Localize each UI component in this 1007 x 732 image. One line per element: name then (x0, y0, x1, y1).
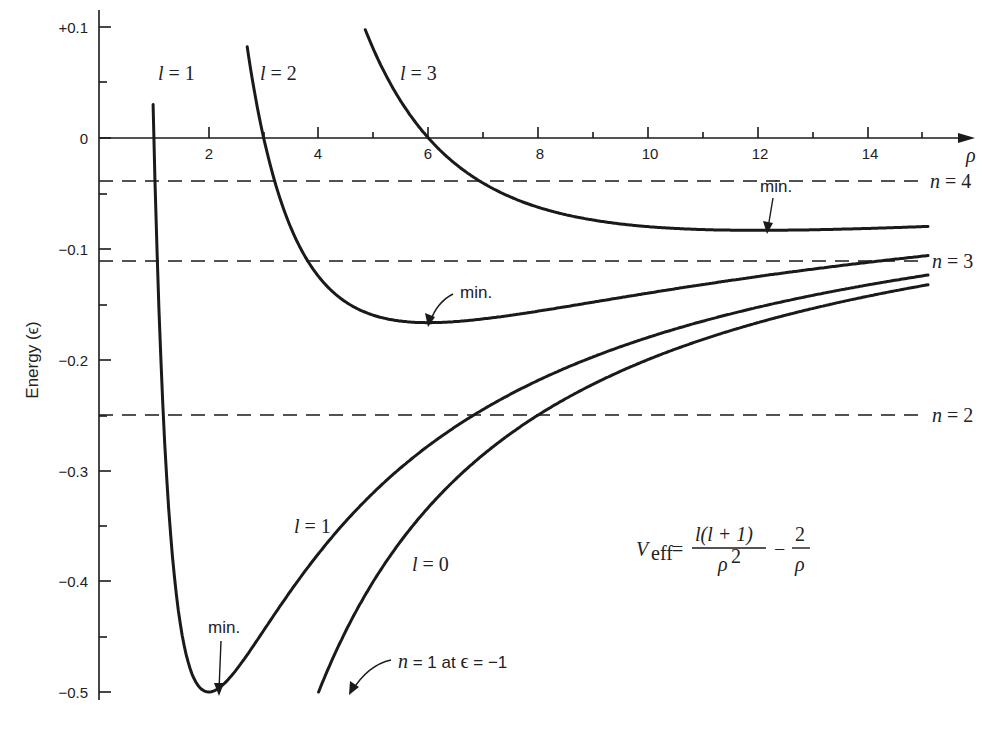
x-tick-label: 6 (424, 145, 432, 162)
arrowheads (214, 221, 773, 696)
formula-denominator: ρ (717, 553, 728, 576)
x-tick-label: 14 (862, 145, 879, 162)
formula-numerator2: 2 (795, 523, 805, 545)
y-tick-labels: +0.1 0 −0.1 −0.2 −0.3 −0.4 −0.5 (58, 19, 88, 701)
level-n4-label: n = 4 (930, 170, 971, 192)
x-tick-labels: 2 4 6 8 10 12 14 (205, 145, 879, 162)
curve-l1-label: l = 1 (294, 515, 331, 537)
curve-l2 (247, 47, 928, 323)
curve-l1 (153, 105, 928, 692)
y-tick-label: −0.3 (58, 463, 88, 480)
x-axis-arrowhead (958, 133, 975, 143)
n1-note: n = 1 at ϵ = −1 (398, 650, 507, 672)
y-axis (99, 10, 111, 700)
level-n3-label: n = 3 (932, 250, 973, 272)
level-n2-label: n = 2 (932, 404, 973, 426)
curve-l3 (365, 30, 928, 231)
y-tick-label: −0.4 (58, 573, 88, 590)
x-axis (99, 127, 962, 138)
formula-equals: = (672, 538, 683, 560)
formula-denominator2: ρ (794, 553, 805, 576)
formula-denominator-exp: 2 (731, 545, 741, 567)
formula: V eff = l(l + 1) ρ 2 − 2 ρ (636, 523, 810, 576)
curve-l0-label: l = 0 (412, 553, 449, 575)
y-tick-label: +0.1 (58, 19, 88, 36)
x-tick-label: 2 (205, 145, 213, 162)
y-axis-label: Energy (ϵ) (23, 321, 42, 398)
x-tick-label: 4 (314, 145, 322, 162)
curves (153, 30, 928, 692)
y-tick-label: −0.1 (58, 241, 88, 258)
curve-l1-top-label: l = 1 (158, 62, 195, 84)
curve-l3-top-label: l = 3 (400, 62, 437, 84)
x-axis-label: ρ (965, 144, 976, 167)
y-tick-label: −0.2 (58, 352, 88, 369)
min-label-l2: min. (460, 283, 492, 302)
x-tick-label: 12 (752, 145, 769, 162)
formula-lhs: V (636, 538, 651, 560)
formula-numerator: l(l + 1) (695, 523, 753, 546)
formula-subscript: eff (651, 542, 673, 564)
x-tick-label: 8 (536, 145, 544, 162)
x-tick-label: 10 (642, 145, 659, 162)
formula-minus: − (774, 538, 785, 560)
min-label-l3: min. (760, 177, 792, 196)
curve-l2-top-label: l = 2 (260, 62, 297, 84)
min-label-l1: min. (208, 618, 240, 637)
y-tick-label: 0 (80, 130, 88, 147)
y-tick-label: −0.5 (58, 684, 88, 701)
effective-potential-chart: +0.1 0 −0.1 −0.2 −0.3 −0.4 −0.5 Energy (… (0, 0, 1007, 732)
